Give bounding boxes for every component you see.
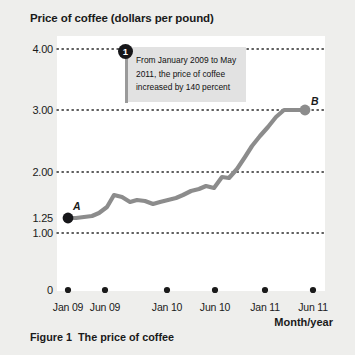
marker-point-a [63, 213, 74, 224]
x-tick-label-jan-10: Jan 10 [152, 301, 182, 313]
y-tick-label-4: 4.00 [32, 43, 53, 55]
x-axis-title: Month/year [274, 316, 333, 328]
figure-caption: Figure 1The price of coffee [30, 331, 174, 343]
figure-caption-text: The price of coffee [78, 331, 174, 343]
y-tick-label-1-25: 1.25 [32, 212, 53, 224]
x-tick-label-jan-11: Jan 11 [250, 301, 280, 313]
point-label-b: B [311, 95, 319, 107]
x-axis-tick-dots [65, 287, 316, 293]
annotation-badge-1: 1 [118, 44, 133, 59]
marker-point-b [300, 105, 311, 116]
data-series-line [68, 110, 305, 218]
figure-caption-label: Figure 1 [30, 331, 72, 343]
x-tick-label-jun-11: Jun 11 [298, 301, 328, 313]
x-tick-label-jun-09: Jun 09 [90, 301, 120, 313]
y-tick-label-0: 0 [47, 284, 53, 296]
figure-container: Price of coffee (dollars per pound) 4.00 [0, 0, 355, 355]
y-tick-label-1: 1.00 [32, 227, 53, 239]
x-tick-label-jun-10: Jun 10 [200, 301, 230, 313]
y-tick-label-3: 3.00 [32, 104, 53, 116]
y-tick-label-2: 2.00 [32, 166, 53, 178]
point-label-a: A [73, 200, 81, 212]
x-tick-label-jan-09: Jan 09 [53, 301, 83, 313]
annotation-callout-text: From January 2009 to May 2011, the price… [128, 47, 246, 102]
